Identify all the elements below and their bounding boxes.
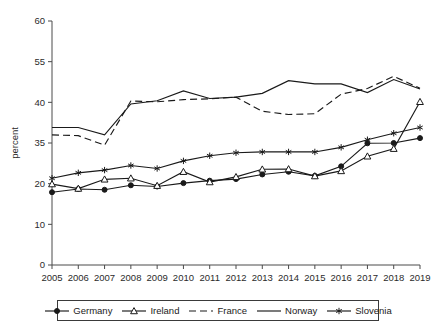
data-point[interactable] [260, 172, 265, 177]
data-point[interactable] [338, 168, 345, 174]
series-france[interactable] [52, 76, 420, 145]
data-point[interactable] [181, 181, 186, 186]
x-tick-label[interactable]: 2019 [409, 272, 430, 283]
x-tick-label[interactable]: 2016 [331, 272, 352, 283]
data-point[interactable] [128, 183, 133, 188]
data-point[interactable] [55, 308, 60, 313]
chart-legend: GermanyIrelandFranceNorwaySlovenia [57, 300, 379, 321]
x-tick-label[interactable]: 2017 [357, 272, 378, 283]
x-tick-label[interactable]: 2013 [252, 272, 273, 283]
data-point[interactable] [418, 136, 423, 141]
x-tick-label[interactable]: 2008 [120, 272, 141, 283]
legend-item-france[interactable]: France [188, 305, 247, 316]
legend-label: Ireland [150, 305, 179, 316]
series-line-germany[interactable] [52, 138, 420, 192]
legend-item-slovenia[interactable]: Slovenia [326, 305, 391, 316]
legend-item-norway[interactable]: Norway [256, 305, 317, 316]
legend-swatch-norway [256, 306, 282, 316]
x-tick-label[interactable]: 2015 [304, 272, 325, 283]
legend-swatch-ireland [121, 306, 147, 316]
x-tick-label[interactable]: 2018 [383, 272, 404, 283]
legend-item-ireland[interactable]: Ireland [121, 305, 179, 316]
legend-label: Germany [73, 305, 112, 316]
y-axis-title[interactable]: percent [9, 127, 20, 159]
x-tick-label[interactable]: 2011 [199, 272, 219, 283]
y-tick-label[interactable]: 35 [34, 137, 45, 148]
legend-swatch-slovenia [326, 306, 352, 316]
y-tick-label[interactable]: 60 [34, 15, 45, 26]
y-tick-label[interactable]: 0 [40, 259, 45, 270]
x-tick-label[interactable]: 2007 [94, 272, 115, 283]
x-tick-label[interactable]: 2006 [68, 272, 89, 283]
x-tick-label[interactable]: 2012 [225, 272, 246, 283]
y-tick-label[interactable]: 20 [34, 178, 45, 189]
data-point[interactable] [50, 190, 55, 195]
data-point[interactable] [417, 98, 424, 104]
legend-swatch-germany [44, 306, 70, 316]
y-tick-label[interactable]: 10 [34, 219, 45, 230]
legend-label: France [217, 305, 247, 316]
legend-item-germany[interactable]: Germany [44, 305, 112, 316]
line-chart: 0102035405560200520062007200820092010201… [0, 0, 434, 334]
data-point[interactable] [390, 145, 397, 151]
data-point[interactable] [102, 187, 107, 192]
x-tick-label[interactable]: 2010 [173, 272, 194, 283]
legend-swatch-france [188, 306, 214, 316]
plot-area: 0102035405560200520062007200820092010201… [0, 0, 434, 334]
series-norway[interactable] [52, 80, 420, 135]
x-tick-label[interactable]: 2005 [41, 272, 62, 283]
series-line-france[interactable] [52, 76, 420, 145]
x-tick-label[interactable]: 2014 [278, 272, 299, 283]
data-point[interactable] [180, 168, 187, 174]
y-tick-label[interactable]: 55 [34, 56, 45, 67]
x-tick-label[interactable]: 2009 [147, 272, 168, 283]
legend-label: Slovenia [355, 305, 391, 316]
legend-label: Norway [285, 305, 317, 316]
y-tick-label[interactable]: 40 [34, 97, 45, 108]
series-line-norway[interactable] [52, 80, 420, 135]
